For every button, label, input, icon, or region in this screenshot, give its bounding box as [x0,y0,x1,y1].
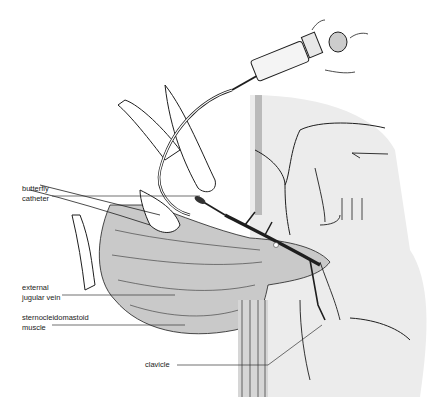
label-clavicle: clavicle [145,360,170,370]
label-line: sternocleidomastoid [22,313,89,323]
label-butterfly-catheter: butterfly catheter [22,184,49,204]
label-line: butterfly [22,184,49,194]
label-external-jugular-vein: external jugular vein [22,283,60,303]
label-line: clavicle [145,360,170,370]
label-line: muscle [22,323,89,333]
label-sternocleidomastoid-muscle: sternocleidomastoid muscle [22,313,89,333]
label-line: jugular vein [22,293,60,303]
catheter-illustration [0,0,434,397]
clavicle-structure [238,300,268,397]
label-line: external [22,283,60,293]
label-line: catheter [22,194,49,204]
syringe [232,20,368,90]
